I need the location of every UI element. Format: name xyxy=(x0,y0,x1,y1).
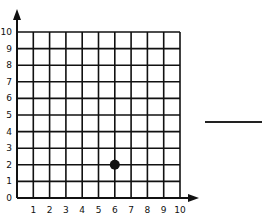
y-tick-label: 7 xyxy=(6,77,12,87)
y-tick-label: 2 xyxy=(6,160,12,170)
y-tick-label: 5 xyxy=(6,110,12,120)
y-tick-label: 8 xyxy=(6,60,12,70)
y-tick-label: 6 xyxy=(6,93,12,103)
x-tick-label: 9 xyxy=(161,205,167,215)
x-tick-label: 2 xyxy=(47,205,53,215)
plotted-point xyxy=(110,160,120,170)
x-tick-label: 8 xyxy=(145,205,151,215)
axes xyxy=(13,9,199,202)
x-tick-label: 10 xyxy=(174,205,186,215)
x-tick-label: 1 xyxy=(30,205,36,215)
y-tick-label: 0 xyxy=(6,193,12,203)
x-tick-label: 4 xyxy=(79,205,85,215)
y-tick-label: 4 xyxy=(6,127,12,137)
x-axis-arrow-icon xyxy=(188,194,199,202)
x-tick-labels: 12345678910 xyxy=(30,205,186,215)
y-axis-arrow-icon xyxy=(13,9,21,20)
y-tick-labels: 012345678910 xyxy=(1,27,13,203)
y-tick-label: 10 xyxy=(1,27,13,37)
x-tick-label: 3 xyxy=(63,205,69,215)
y-tick-label: 3 xyxy=(6,143,12,153)
x-tick-label: 7 xyxy=(128,205,134,215)
grid-lines xyxy=(17,32,180,198)
x-tick-label: 5 xyxy=(96,205,102,215)
y-tick-label: 1 xyxy=(6,176,12,186)
data-points xyxy=(110,160,120,170)
answer-blank-line[interactable] xyxy=(205,121,262,123)
x-tick-label: 6 xyxy=(112,205,118,215)
coordinate-grid-chart: 12345678910 012345678910 xyxy=(0,0,264,224)
y-tick-label: 9 xyxy=(6,44,12,54)
